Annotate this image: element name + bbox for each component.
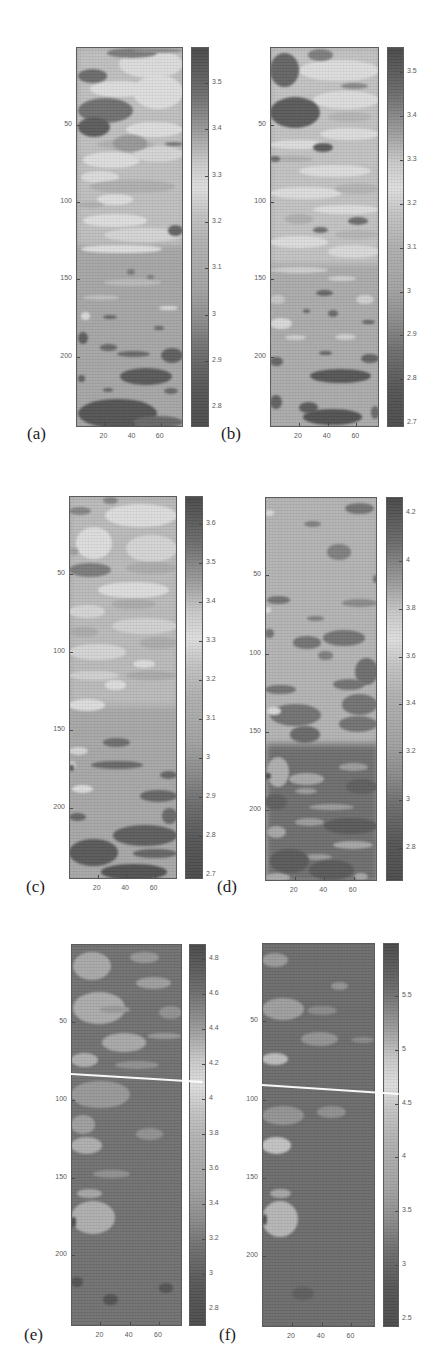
colorbar-tick-label: 3: [402, 1260, 406, 1268]
colorbar-tick-mark: [202, 1064, 205, 1065]
heat-patch: [328, 276, 357, 281]
colorbar-tick-mark: [199, 836, 202, 837]
heat-patch: [307, 1006, 337, 1015]
colorbar-tick-label: 3.5: [402, 1206, 412, 1214]
y-tick-mark: [70, 730, 73, 731]
colorbar-tick-label: 3.3: [407, 155, 417, 163]
colorbar-tick-label: 4: [209, 1094, 213, 1102]
heat-patch: [100, 344, 117, 350]
heat-patch: [270, 1189, 291, 1198]
colorbar-tick-label: 2.9: [212, 356, 222, 364]
colorbar-tick-label: 3.4: [212, 124, 222, 132]
y-tick-label: 200: [29, 803, 65, 811]
grain-texture: [384, 944, 398, 1326]
colorbar-tick-label: 3: [212, 310, 216, 318]
heat-patch: [303, 309, 310, 314]
y-tick-mark: [271, 279, 274, 280]
x-tick-label: 60: [338, 886, 368, 894]
x-tick-label: 40: [114, 1331, 144, 1339]
colorbar-tick-mark: [399, 657, 402, 658]
y-tick-label: 50: [225, 570, 261, 578]
heat-patch: [304, 521, 322, 527]
heat-patch: [69, 627, 97, 636]
colorbar-tick-mark: [199, 563, 202, 564]
y-tick-mark: [72, 1255, 75, 1256]
colorbar-tick-label: 3: [406, 795, 410, 803]
colorbar-tick-mark: [400, 72, 403, 73]
y-tick-mark: [70, 574, 73, 575]
heat-patch: [270, 849, 310, 872]
heat-patch: [316, 290, 333, 296]
heat-patch: [270, 156, 280, 162]
heat-patch: [265, 685, 296, 694]
colorbar-tick-mark: [395, 996, 398, 997]
colorbar-tick-mark: [202, 1274, 205, 1275]
heat-patch: [285, 335, 307, 340]
heat-patch: [130, 952, 159, 963]
x-tick-label: 40: [110, 884, 140, 892]
y-tick-label: 50: [31, 1017, 67, 1025]
heat-patch: [356, 295, 373, 304]
grain-texture: [192, 48, 208, 426]
heat-patch: [103, 1294, 118, 1305]
heat-patch: [78, 332, 88, 344]
heat-patch: [323, 630, 366, 646]
heat-patch: [319, 351, 332, 356]
heat-patch: [69, 839, 117, 866]
heat-patch: [120, 368, 172, 385]
colorbar-tick-mark: [205, 176, 208, 177]
heat-patch: [262, 1201, 298, 1237]
colorbar-tick-mark: [199, 602, 202, 603]
heat-patch: [133, 849, 177, 858]
heat-patch: [91, 761, 144, 769]
heat-patch: [371, 406, 379, 418]
heat-patch: [320, 128, 379, 140]
heat-patch: [265, 773, 271, 779]
grain-texture: [388, 48, 403, 426]
heat-patch: [140, 790, 177, 802]
y-tick-label: 50: [222, 1016, 258, 1024]
heat-patch: [77, 1189, 102, 1198]
heatmap-e: [71, 944, 182, 1326]
x-tick-mark: [133, 423, 134, 426]
heat-patch: [76, 527, 112, 558]
heat-patch: [342, 694, 377, 714]
heat-patch: [262, 953, 287, 967]
heat-patch: [265, 873, 290, 881]
colorbar-tick-mark: [202, 1099, 205, 1100]
y-tick-label: 50: [36, 120, 72, 128]
x-tick-label: 20: [82, 884, 112, 892]
colorbar-tick-label: 4.2: [209, 1059, 219, 1067]
x-tick-mark: [328, 423, 329, 426]
panel-label-b: (b): [221, 425, 241, 443]
y-tick-mark: [77, 357, 80, 358]
heat-patch: [331, 982, 349, 990]
heat-patch: [140, 637, 177, 649]
heat-patch: [126, 562, 177, 574]
heat-patch: [162, 808, 177, 824]
colorbar-tick-label: 4.8: [209, 954, 219, 962]
heat-patch: [71, 1201, 115, 1234]
heat-patch: [313, 227, 327, 233]
y-tick-mark: [263, 1100, 266, 1101]
colorbar-tick-label: 2.8: [406, 843, 416, 851]
x-tick-mark: [299, 423, 300, 426]
y-tick-mark: [271, 125, 274, 126]
heat-patch: [112, 618, 177, 634]
colorbar-tick-mark: [399, 609, 402, 610]
heat-patch: [147, 275, 154, 280]
heat-patch: [290, 726, 319, 743]
heat-patch: [103, 315, 117, 319]
y-tick-label: 50: [29, 569, 65, 577]
colorbar-tick-mark: [399, 800, 402, 801]
heat-patch: [160, 771, 177, 779]
colorbar-tick-label: 4.5: [402, 1099, 412, 1107]
heat-patch: [104, 279, 160, 285]
heat-patch: [136, 1128, 164, 1140]
colorbar-tick-mark: [199, 719, 202, 720]
y-tick-mark: [263, 1021, 266, 1022]
heat-patch: [265, 607, 271, 613]
heat-patch: [267, 826, 286, 839]
colorbar-tick-mark: [395, 1211, 398, 1212]
colorbar-tick-label: 3.2: [206, 675, 216, 683]
